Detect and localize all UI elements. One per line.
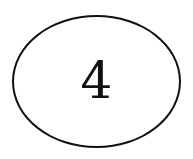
ellipse-node: 4 (12, 15, 181, 148)
node-label: 4 (14, 17, 179, 146)
